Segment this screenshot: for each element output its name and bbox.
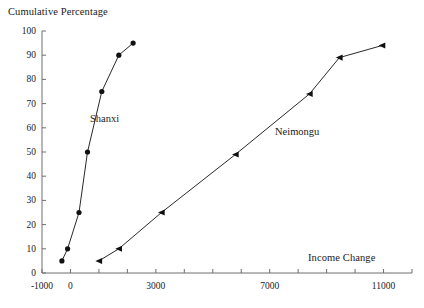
data-point: [336, 55, 343, 61]
data-point: [76, 210, 81, 215]
data-point: [65, 246, 70, 251]
data-point: [379, 43, 386, 49]
data-point: [116, 53, 121, 58]
data-point: [95, 258, 102, 264]
data-point: [59, 258, 64, 263]
plot-area: [0, 0, 424, 308]
series-neimongu: [95, 43, 385, 264]
chart-container: Cumulative Percentage Income Change Shan…: [0, 0, 424, 308]
data-point: [131, 41, 136, 46]
data-point: [99, 89, 104, 94]
axes-layer: [42, 31, 412, 273]
data-point: [115, 246, 122, 252]
series-line-shanxi: [62, 43, 133, 261]
data-point: [85, 149, 90, 154]
series-layer: [59, 41, 385, 264]
series-shanxi: [59, 41, 135, 264]
series-line-neimongu: [99, 46, 382, 261]
